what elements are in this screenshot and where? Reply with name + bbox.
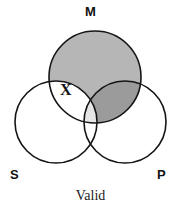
existential-x-mark: X xyxy=(60,82,72,98)
circle-label-p: P xyxy=(157,168,166,181)
venn-diagram-figure: M S P X Valid xyxy=(0,0,181,211)
figure-caption: Valid xyxy=(0,189,181,203)
venn-diagram-canvas xyxy=(0,0,181,211)
circle-label-m: M xyxy=(0,5,181,18)
circle-label-s: S xyxy=(10,168,19,181)
